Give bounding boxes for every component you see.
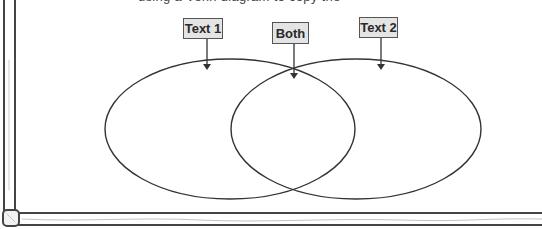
arrowhead-icon [377, 64, 385, 70]
label-text2-text: Text 2 [360, 20, 397, 35]
diagram-svg [0, 0, 542, 229]
label-text2: Text 2 [359, 17, 398, 38]
right-set-ellipse [231, 59, 481, 199]
arrowhead-icon [203, 64, 211, 70]
left-set-ellipse [105, 59, 355, 199]
label-both: Both [272, 22, 309, 44]
arrowhead-icon [290, 73, 298, 79]
label-text1: Text 1 [183, 18, 223, 39]
arrow-text1 [203, 39, 211, 70]
label-text1-text: Text 1 [185, 21, 222, 36]
venn-diagram-worksheet: using a Venn diagram to copy the [0, 0, 542, 229]
arrow-text2 [377, 38, 385, 70]
arrow-both [290, 44, 298, 79]
label-both-text: Both [276, 26, 306, 41]
frame-bottom-shading [22, 219, 542, 221]
